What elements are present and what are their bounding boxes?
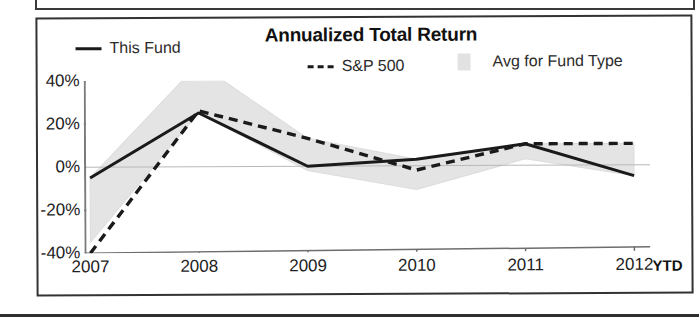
y-tick-label: 40%: [46, 71, 80, 91]
series-canvas: [84, 79, 651, 253]
y-tick-label: 20%: [46, 114, 80, 134]
legend-item-this-fund: This Fund: [75, 39, 180, 57]
y-tick-label: 0%: [55, 157, 80, 177]
legend-label-avg-for-fund-type: Avg for Fund Type: [493, 52, 623, 71]
ytd-annotation: YTD: [652, 257, 682, 274]
legend-item-avg-for-fund-type: Avg for Fund Type: [458, 52, 623, 71]
page-box-above: [35, 0, 695, 10]
x-tick-label: 2010: [398, 256, 436, 276]
legend-item-sp500: S&P 500: [308, 57, 405, 75]
page-box-below: [0, 314, 699, 321]
avg-for-fund-type-band: [90, 79, 635, 243]
y-tick-label: -20%: [41, 200, 81, 220]
legend-label-sp500: S&P 500: [342, 57, 405, 75]
plot-area: [84, 79, 651, 253]
x-axis: 200720082009201020112012: [84, 255, 650, 287]
x-tick-label: 2009: [289, 256, 327, 276]
x-axis-line: [85, 247, 650, 253]
area-swatch-icon: [458, 53, 471, 70]
dashed-line-swatch-icon: [308, 65, 334, 68]
x-tick-label: 2008: [180, 257, 218, 277]
y-axis: 40%20%0%-20%-40%: [38, 81, 81, 253]
annualized-total-return-chart: Annualized Total Return This Fund S&P 50…: [35, 15, 693, 297]
solid-line-swatch-icon: [76, 47, 102, 50]
legend-label-this-fund: This Fund: [109, 39, 180, 57]
x-tick-label: 2007: [72, 257, 110, 277]
x-tick-label: 2012: [616, 255, 654, 275]
x-tick-label: 2011: [507, 255, 544, 275]
